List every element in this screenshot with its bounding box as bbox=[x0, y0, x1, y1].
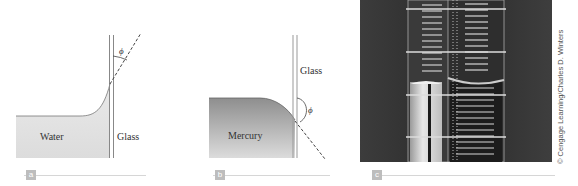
panel-label-a: a bbox=[26, 170, 36, 180]
caption-line-c bbox=[378, 175, 555, 176]
mercury-label: Mercury bbox=[228, 130, 262, 141]
panel-a-water-glass: ϕ Water Glass bbox=[0, 0, 180, 165]
panel-label-b: b bbox=[215, 170, 225, 180]
water-meniscus-diagram: ϕ Water Glass bbox=[0, 0, 180, 165]
mercury-meniscus-diagram: ϕ Mercury Glass bbox=[180, 0, 360, 165]
panel-b-caption: b bbox=[205, 170, 330, 180]
panel-b-mercury-glass: ϕ Mercury Glass bbox=[180, 0, 360, 165]
panel-label-c: c bbox=[372, 170, 382, 180]
panel-c-photo bbox=[360, 0, 552, 162]
graduated-cylinders-photo bbox=[360, 0, 552, 162]
angle-phi-b: ϕ bbox=[308, 105, 313, 115]
glass-label-a: Glass bbox=[117, 131, 139, 142]
panel-c-caption: c bbox=[370, 170, 555, 180]
water-label: Water bbox=[40, 131, 64, 142]
panel-a-caption: a bbox=[16, 170, 146, 180]
caption-line-a bbox=[24, 175, 146, 176]
photo-credit: © Cengage Learning/Charles D. Winters bbox=[556, 30, 565, 164]
caption-line-b bbox=[213, 175, 330, 176]
angle-phi-a: ϕ bbox=[119, 46, 124, 56]
glass-label-b: Glass bbox=[300, 65, 322, 76]
